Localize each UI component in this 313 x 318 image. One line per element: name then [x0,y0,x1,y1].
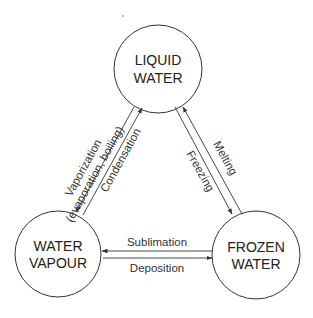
diagram-canvas: LIQUID WATER WATER VAPOUR FROZEN WATER V… [0,0,313,318]
node-label-line2: WATER [232,256,281,272]
node-label-line1: FROZEN [227,239,285,255]
node-liquid-water: LIQUID WATER [114,25,202,113]
label-melting: Melting [211,139,239,177]
stray-dot [122,15,124,17]
node-label-line2: VAPOUR [29,255,87,271]
label-sublimation: Sublimation [127,236,187,248]
node-circle [212,211,300,299]
node-label-line1: WATER [34,238,83,254]
node-frozen-water: FROZEN WATER [212,211,300,299]
node-circle [15,211,101,297]
node-circle [114,25,202,113]
node-water-vapour: WATER VAPOUR [15,211,101,297]
label-deposition: Deposition [130,262,184,274]
node-label-line2: WATER [134,70,183,86]
node-label-line1: LIQUID [135,52,182,68]
phase-diagram: LIQUID WATER WATER VAPOUR FROZEN WATER V… [0,0,313,318]
